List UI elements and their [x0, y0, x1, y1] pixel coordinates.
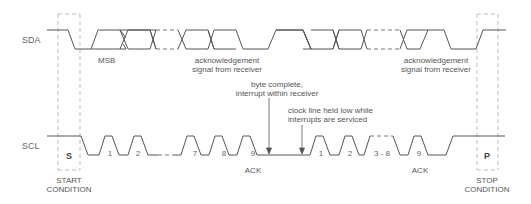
byte-complete-line1: byte complete,: [236, 80, 319, 89]
ack-signal-label-2: acknowledgement signal from receiver: [401, 56, 471, 74]
clock-hold-line2: interrupts are serviced: [288, 115, 373, 124]
pulse-label-3-8: 3 - 8: [374, 149, 390, 158]
ack-signal-label-1-line1: acknowledgement: [192, 56, 262, 65]
msb-label: MSB: [98, 56, 115, 65]
pulse-label-9b: 9: [417, 149, 421, 158]
byte-complete-note: byte complete, interrupt within receiver: [236, 80, 319, 98]
pulse-label-1b: 1: [319, 149, 323, 158]
pulse-label-2b: 2: [348, 149, 352, 158]
ack-signal-label-1: acknowledgement signal from receiver: [192, 56, 262, 74]
pulse-label-2: 2: [136, 149, 140, 158]
pulse-label-8: 8: [222, 149, 226, 158]
clock-hold-line1: clock line held low while: [288, 106, 373, 115]
scl-label: SCL: [22, 142, 40, 151]
sda-label: SDA: [22, 36, 41, 45]
scl-waveform: [47, 136, 505, 155]
start-box-label: S: [66, 152, 72, 161]
byte-complete-line2: interrupt within receiver: [236, 89, 319, 98]
ack-signal-label-1-line2: signal from receiver: [192, 65, 262, 74]
stop-condition-line2: CONDITION: [465, 185, 510, 194]
i2c-timing-diagram: [0, 0, 531, 204]
start-condition-line2: CONDITION: [47, 185, 92, 194]
sda-waveform: [47, 30, 506, 49]
pulse-label-1: 1: [108, 149, 112, 158]
clock-hold-note: clock line held low while interrupts are…: [288, 106, 373, 124]
ack-label-2: ACK: [412, 166, 428, 175]
start-condition-line1: START: [47, 176, 92, 185]
pulse-label-9: 9: [251, 149, 255, 158]
start-condition-label: START CONDITION: [47, 176, 92, 194]
ack-label-1: ACK: [245, 166, 261, 175]
ack-signal-label-2-line1: acknowledgement: [401, 56, 471, 65]
ack-signal-label-2-line2: signal from receiver: [401, 65, 471, 74]
stop-box-label: P: [484, 152, 490, 161]
pulse-label-7: 7: [193, 149, 197, 158]
stop-condition-label: STOP CONDITION: [465, 176, 510, 194]
start-condition-box: [58, 14, 80, 170]
stop-condition-line1: STOP: [465, 176, 510, 185]
